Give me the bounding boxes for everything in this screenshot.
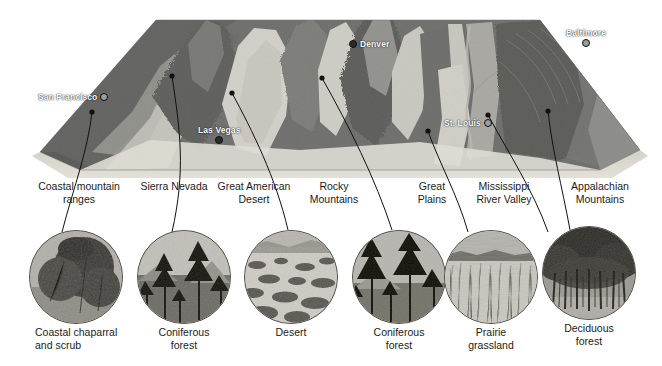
- photo-caption: Coniferous forest: [374, 326, 425, 351]
- biome-photo-desert[interactable]: Desert: [244, 230, 338, 324]
- region-label-rocky-mountains: Rocky Mountains: [295, 180, 373, 205]
- region-label-row: Coastal mountain ranges Sierra Nevada Gr…: [0, 176, 662, 220]
- biome-photo-coniferous-forest-rocky[interactable]: Coniferous forest: [352, 230, 446, 324]
- photo-circle-conifer-west: [137, 230, 231, 324]
- region-label-sierra-nevada: Sierra Nevada: [131, 180, 217, 193]
- biome-photo-row: Coastal chaparral and scrub: [0, 222, 662, 366]
- region-label-great-plains: Great Plains: [405, 180, 459, 205]
- photo-circle-deciduous: [542, 226, 636, 320]
- region-label-mississippi-river-valley: Mississippi River Valley: [458, 180, 550, 205]
- photo-circle-prairie: [444, 230, 538, 324]
- photo-caption: Prairie grassland: [468, 326, 515, 351]
- photo-caption: Deciduous forest: [564, 322, 614, 347]
- photo-circle-chaparral: [29, 230, 123, 324]
- transect-figure: San Francisco Las Vegas Denver St. Louis…: [0, 0, 662, 366]
- relief-map-svg: [0, 0, 662, 180]
- photo-circle-conifer-rocky: [352, 230, 446, 324]
- biome-photo-coastal-chaparral-and-scrub[interactable]: Coastal chaparral and scrub: [29, 230, 123, 324]
- region-label-coastal-mountain-ranges: Coastal mountain ranges: [31, 180, 127, 205]
- photo-caption: Coniferous forest: [159, 326, 210, 351]
- region-label-great-american-desert: Great American Desert: [208, 180, 300, 205]
- photo-caption: Coastal chaparral and scrub: [35, 326, 117, 351]
- biome-photo-coniferous-forest-west[interactable]: Coniferous forest: [137, 230, 231, 324]
- biome-photo-prairie-grassland[interactable]: Prairie grassland: [444, 230, 538, 324]
- biome-photo-deciduous-forest[interactable]: Deciduous forest: [542, 226, 636, 320]
- photo-caption: Desert: [276, 326, 307, 339]
- photo-circle-desert: [244, 230, 338, 324]
- region-label-appalachian-mountains: Appalachian Mountains: [558, 180, 642, 205]
- relief-map-panel: San Francisco Las Vegas Denver St. Louis…: [0, 0, 662, 180]
